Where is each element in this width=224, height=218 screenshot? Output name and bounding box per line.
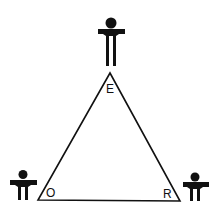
- vertex-label-r: R: [163, 187, 172, 201]
- person-icon-bottom-right: [183, 173, 209, 202]
- vertex-label-o: O: [46, 186, 55, 200]
- person-icon-bottom-left: [10, 170, 37, 200]
- triangle-diagram: E O R: [0, 0, 224, 218]
- vertex-label-e: E: [106, 82, 114, 96]
- person-icon-top: [98, 18, 125, 67]
